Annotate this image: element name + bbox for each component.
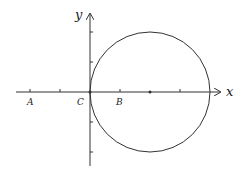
point-label-b: B (115, 97, 123, 107)
origin-point (89, 91, 92, 94)
coordinate-diagram: y x A C B (0, 0, 249, 177)
point-label-c: C (77, 97, 84, 107)
x-axis-label: x (226, 84, 234, 99)
circle-center-point (149, 91, 152, 94)
point-label-a: A (26, 97, 34, 107)
y-axis-label: y (74, 7, 83, 22)
